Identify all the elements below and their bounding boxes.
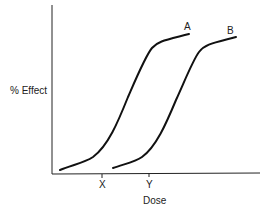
x-axis-label: Dose	[143, 196, 166, 206]
x-axis	[52, 173, 260, 174]
curve-label-b: B	[227, 26, 234, 36]
tick-label-x: X	[99, 180, 106, 190]
y-axis-label: % Effect	[10, 86, 47, 96]
curve-a	[60, 34, 189, 170]
curve-b	[113, 37, 236, 168]
curve-label-a: A	[184, 22, 191, 32]
tick-label-y: Y	[146, 180, 153, 190]
dose-response-diagram	[0, 0, 264, 212]
